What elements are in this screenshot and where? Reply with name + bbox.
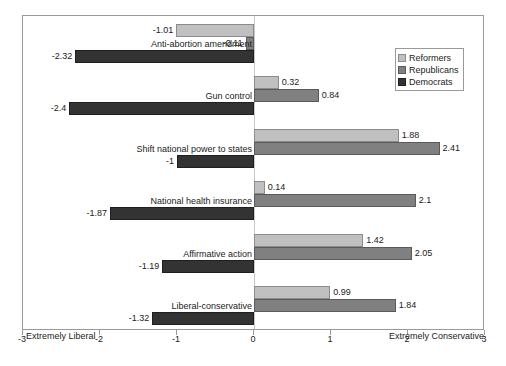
bar-value-label: 1.88: [402, 128, 420, 142]
bar-group: 1.882.41Shift national power to states-1: [23, 129, 483, 168]
bar-value-label: -2.32: [52, 49, 73, 63]
legend-swatch-icon: [398, 78, 406, 86]
category-label: Affirmative action: [183, 247, 252, 261]
bar-row: -1: [23, 155, 483, 168]
bar-value-label: 2.05: [415, 246, 433, 260]
bar-democrats[interactable]: [69, 102, 254, 115]
bar-value-label: 1.84: [399, 298, 417, 312]
bar-republicans[interactable]: [254, 194, 416, 207]
legend-swatch-icon: [398, 66, 406, 74]
bar-republicans[interactable]: [254, 89, 319, 102]
axis-tick-label: -3: [18, 334, 26, 344]
axis-tick-label: -2: [95, 334, 103, 344]
category-label: National health insurance: [150, 194, 252, 208]
bar-row: -1.87: [23, 207, 483, 220]
zero-reference-line: [254, 16, 255, 329]
bar-reformers[interactable]: [254, 129, 399, 142]
bar-value-label: 0.14: [268, 180, 286, 194]
bar-value-label: -1.01: [153, 23, 174, 37]
bar-republicans[interactable]: [254, 247, 412, 260]
bar-value-label: -1.19: [139, 259, 160, 273]
bar-value-label: 0.84: [322, 88, 340, 102]
category-label: Gun control: [205, 89, 252, 103]
bar-row: 2.41Shift national power to states: [23, 142, 483, 155]
category-label: Liberal-conservative: [171, 299, 252, 313]
bar-republicans[interactable]: [254, 299, 396, 312]
bar-democrats[interactable]: [162, 260, 254, 273]
legend-item-democrats: Democrats: [398, 76, 459, 87]
axis-tick-label: -1: [172, 334, 180, 344]
legend-item-reformers: Reformers: [398, 52, 459, 63]
bar-value-label: 0.99: [333, 285, 351, 299]
category-label: Anti-abortion amendment: [151, 37, 252, 51]
bar-value-label: -2.4: [51, 101, 67, 115]
legend-label: Democrats: [409, 77, 453, 87]
bar-row: 0.14: [23, 181, 483, 194]
axis-end-label-right: Extremely Conservative: [389, 331, 484, 341]
bar-democrats[interactable]: [152, 312, 254, 325]
bar-group: 1.422.05Affirmative action-1.19: [23, 234, 483, 273]
legend-swatch-icon: [398, 54, 406, 62]
bar-value-label: 2.1: [419, 193, 432, 207]
bar-row: -2.4: [23, 102, 483, 115]
bar-row: 1.88: [23, 129, 483, 142]
legend-label: Republicans: [409, 65, 459, 75]
legend-item-republicans: Republicans: [398, 64, 459, 75]
axis-end-label-left: Extremely Liberal: [26, 331, 96, 341]
axis-tick-label: 0: [250, 334, 255, 344]
bar-group: 0.142.1National health insurance-1.87: [23, 181, 483, 220]
bar-row: 1.84Liberal-conservative: [23, 299, 483, 312]
bar-value-label: 2.41: [443, 141, 461, 155]
category-label: Shift national power to states: [136, 142, 252, 156]
bar-row: 0.84Gun control: [23, 89, 483, 102]
bar-reformers[interactable]: [254, 181, 265, 194]
legend-label: Reformers: [409, 53, 451, 63]
bar-row: 2.05Affirmative action: [23, 247, 483, 260]
legend: Reformers Republicans Democrats: [395, 48, 464, 91]
bar-row: -1.32: [23, 312, 483, 325]
bar-value-label: -1: [166, 154, 174, 168]
bar-republicans[interactable]: [254, 142, 440, 155]
bar-value-label: 0.32: [282, 75, 300, 89]
bar-reformers[interactable]: [254, 286, 330, 299]
bar-reformers[interactable]: [254, 234, 363, 247]
bar-value-label: -1.87: [86, 206, 107, 220]
bar-reformers[interactable]: [254, 76, 279, 89]
bar-row: -1.19: [23, 260, 483, 273]
bar-democrats[interactable]: [177, 155, 254, 168]
bar-group: 0.991.84Liberal-conservative-1.32: [23, 286, 483, 325]
bar-row: -1.01: [23, 24, 483, 37]
bar-chart: -1.01-0.11Anti-abortion amendment-2.320.…: [0, 0, 506, 366]
bar-democrats[interactable]: [110, 207, 254, 220]
axis-tick-label: 1: [327, 334, 332, 344]
bar-value-label: -1.32: [129, 311, 150, 325]
bar-democrats[interactable]: [75, 50, 254, 63]
bar-value-label: 1.42: [366, 233, 384, 247]
